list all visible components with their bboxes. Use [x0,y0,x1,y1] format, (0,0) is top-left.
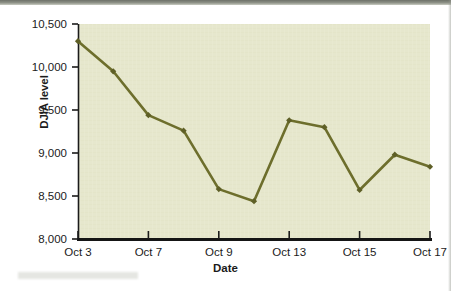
plot-area-background [78,24,430,239]
x-axis-tick-labels: Oct 3Oct 7Oct 9Oct 13Oct 15Oct 17 [64,246,447,258]
y-axis-tick-label: 10,000 [32,61,67,73]
y-axis-tick-label: 8,000 [38,233,67,245]
y-axis-tick-labels: 8,0008,5009,0009,50010,00010,500 [32,18,67,245]
y-axis-ticks [72,24,78,239]
x-axis-tick-label: Oct 13 [272,246,306,258]
y-axis-tick-label: 10,500 [32,18,67,30]
x-axis-tick-label: Oct 9 [205,246,232,258]
x-axis-tick-label: Oct 7 [135,246,162,258]
y-axis-tick-label: 8,500 [38,190,67,202]
x-axis-tick-label: Oct 17 [413,246,447,258]
y-axis-tick-label: 9,500 [38,104,67,116]
djia-line-chart-figure: 8,0008,5009,0009,50010,00010,500 Oct 3Oc… [0,0,451,291]
x-axis-tick-label: Oct 15 [343,246,377,258]
chart-plot: 8,0008,5009,0009,50010,00010,500 Oct 3Oc… [0,0,451,291]
y-axis-tick-label: 9,000 [38,147,67,159]
x-axis-tick-label: Oct 3 [64,246,91,258]
